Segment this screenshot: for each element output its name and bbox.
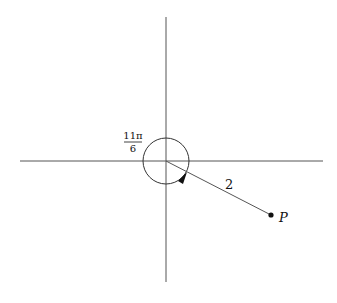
point-p-dot bbox=[268, 212, 273, 217]
angle-denominator: 6 bbox=[130, 143, 136, 154]
radius-segment bbox=[166, 161, 271, 215]
angle-numerator: 11π bbox=[123, 130, 143, 141]
arc-arrowhead-icon bbox=[178, 172, 187, 184]
polar-diagram: 2 P 11π 6 bbox=[0, 0, 337, 303]
point-label: P bbox=[278, 210, 288, 225]
segment-length-label: 2 bbox=[225, 177, 233, 192]
